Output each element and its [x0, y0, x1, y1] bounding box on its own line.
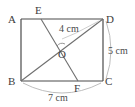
angle-arc-O: [57, 43, 65, 46]
dimension-label-4cm: 4 cm: [59, 23, 79, 34]
dimension-label-5cm: 5 cm: [108, 45, 128, 56]
dimension-label-7cm: 7 cm: [48, 92, 68, 103]
vertex-label-D: D: [106, 13, 114, 25]
vertex-label-B: B: [8, 75, 15, 87]
vertex-label-E: E: [35, 4, 42, 16]
geometry-figure: A D B C E F O 4 cm 5 cm 7 cm: [0, 0, 135, 107]
vertex-label-O: O: [58, 48, 66, 60]
vertex-label-C: C: [105, 75, 112, 87]
vertex-label-F: F: [74, 82, 80, 94]
vertex-label-A: A: [8, 13, 16, 25]
figure-canvas: A D B C E F O 4 cm 5 cm 7 cm: [0, 0, 135, 107]
